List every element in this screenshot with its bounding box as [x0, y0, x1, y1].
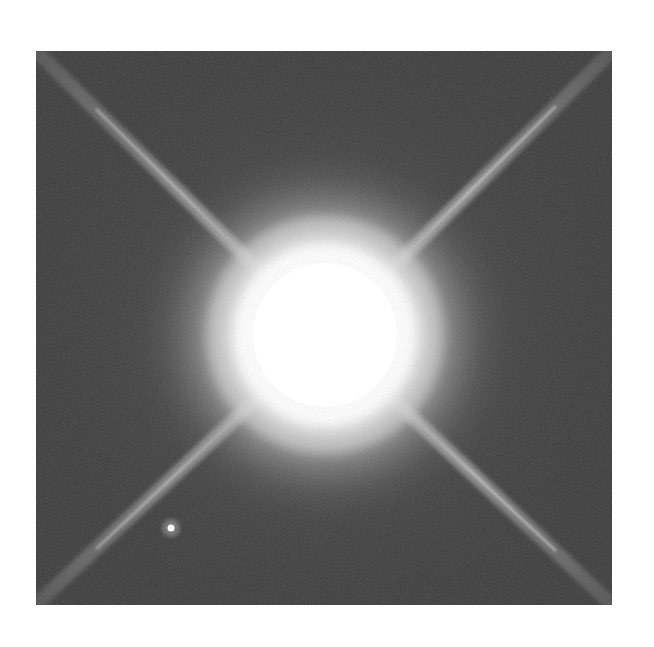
star-photograph: Bright star with four diffraction spikes… [36, 51, 612, 605]
star-field-graphic [36, 51, 612, 605]
